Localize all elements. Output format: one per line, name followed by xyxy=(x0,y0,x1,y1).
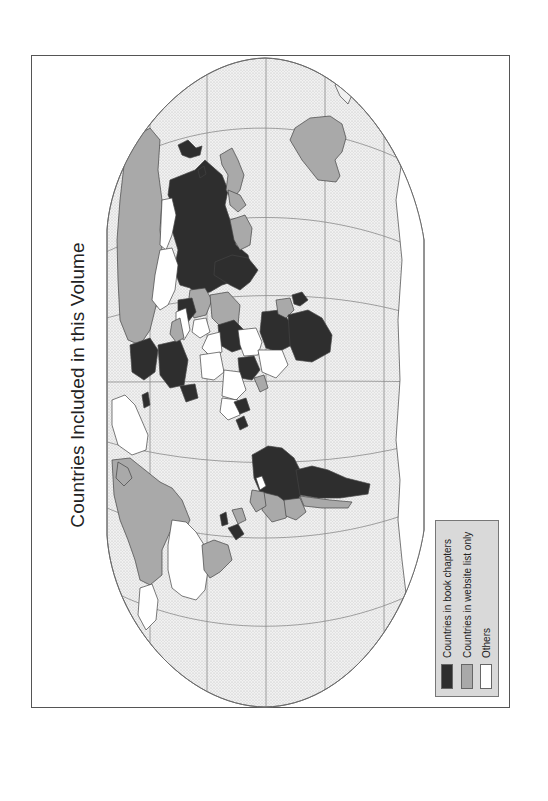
legend-swatch-others xyxy=(480,664,492,689)
map-legend: Countries in book chapters Countries in … xyxy=(435,520,499,697)
legend-swatch-website-list xyxy=(461,664,473,689)
legend-label-website-list: Countries in website list only xyxy=(462,532,473,658)
legend-label-book-chapters: Countries in book chapters xyxy=(442,539,453,658)
legend-label-others: Others xyxy=(481,628,492,658)
legend-swatch-book-chapters xyxy=(441,664,453,689)
